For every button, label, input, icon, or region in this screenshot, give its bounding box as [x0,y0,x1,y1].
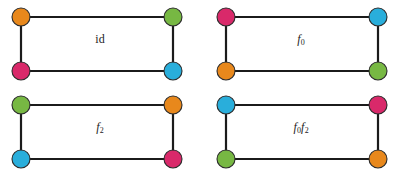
node-bottom-right [164,150,182,168]
node-bottom-left [217,150,235,168]
node-top-left [217,96,235,114]
node-top-right [164,8,182,26]
panel-f0f2-label-subscript: 0 [297,126,301,135]
panel-f0f2: f0f2 [201,88,401,176]
panel-f0-label: f0 [201,33,401,45]
node-bottom-right [164,62,182,80]
panel-f2: f2 [0,88,200,176]
node-top-left [12,96,30,114]
symmetry-diagram-figure: id f0 f2 [0,0,401,176]
node-bottom-right [369,62,387,80]
node-top-right [369,8,387,26]
node-bottom-left [217,62,235,80]
panel-f0f2-label-subscript2: 2 [305,126,309,135]
node-bottom-left [12,150,30,168]
panel-id: id [0,0,200,88]
panel-f0f2-label-text2: f [301,120,304,134]
node-top-left [12,8,30,26]
panel-id-label: id [0,33,200,45]
panel-f0f2-label: f0f2 [201,121,401,133]
node-top-right [164,96,182,114]
node-top-right [369,96,387,114]
node-bottom-left [12,62,30,80]
panel-f0-label-subscript: 0 [301,38,305,47]
panel-f0: f0 [201,0,401,88]
panel-f2-label-subscript: 2 [100,126,104,135]
node-bottom-right [369,150,387,168]
panel-id-label-text: id [95,32,105,46]
node-top-left [217,8,235,26]
panel-f2-label: f2 [0,121,200,133]
